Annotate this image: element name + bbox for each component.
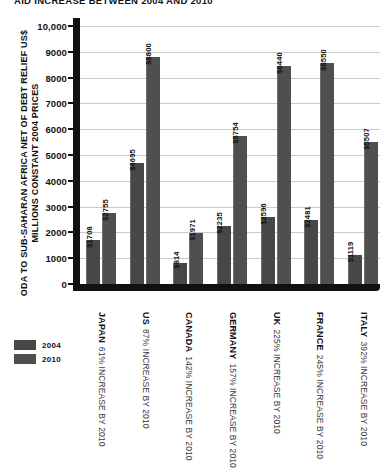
y-axis-tick-label: 9000 bbox=[45, 46, 67, 57]
chart-legend: 20042010 bbox=[14, 340, 61, 364]
bar-value-label: $8800 bbox=[144, 43, 153, 64]
bar: $8550 bbox=[320, 63, 334, 284]
legend-item: 2004 bbox=[14, 340, 61, 350]
category-increase: 392% INCREASE BY 2010 bbox=[359, 342, 369, 446]
bar-group: $814$1971 bbox=[173, 26, 203, 284]
y-axis-tick-label: 6000 bbox=[45, 124, 67, 135]
plot-area: $1708$2755$4695$8800$814$1971$2235$5754$… bbox=[73, 26, 380, 284]
bar-value-label: $1708 bbox=[85, 226, 94, 247]
bar-value-label: $2481 bbox=[303, 206, 312, 227]
bar: $8800 bbox=[146, 57, 160, 284]
y-axis-tick-label: 8000 bbox=[45, 72, 67, 83]
legend-item: 2010 bbox=[14, 354, 61, 364]
bar-group: $1119$5507 bbox=[348, 26, 378, 284]
category-label: ITALY392% INCREASE BY 2010 bbox=[353, 312, 369, 472]
bar: $2596 bbox=[261, 217, 275, 284]
bar-value-label: $4695 bbox=[128, 149, 137, 170]
bar: $8440 bbox=[277, 66, 291, 284]
bar-value-label: $8550 bbox=[319, 50, 328, 71]
category-increase: 61% INCREASE BY 2010 bbox=[97, 347, 107, 447]
category-label: US87% INCREASE BY 2010 bbox=[135, 312, 151, 472]
bar: $2755 bbox=[102, 213, 116, 284]
category-labels: JAPAN61% INCREASE BY 2010US87% INCREASE … bbox=[80, 312, 380, 472]
category-increase: 245% INCREASE BY 2010 bbox=[315, 355, 325, 459]
bar-group: $4695$8800 bbox=[130, 26, 160, 284]
bar-value-label: $1971 bbox=[188, 219, 197, 240]
bar: $5507 bbox=[364, 142, 378, 284]
bar-group: $2235$5754 bbox=[217, 26, 247, 284]
bar-groups: $1708$2755$4695$8800$814$1971$2235$5754$… bbox=[80, 26, 380, 284]
bar: $1708 bbox=[86, 240, 100, 284]
y-axis-tick-label: 5000 bbox=[45, 150, 67, 161]
bar: $4695 bbox=[130, 163, 144, 284]
category-increase: 225% INCREASE BY 2010 bbox=[272, 329, 282, 433]
bar-group: $1708$2755 bbox=[86, 26, 116, 284]
category-label: CANADA142% INCREASE BY 2010 bbox=[178, 312, 194, 472]
bar-value-label: $5507 bbox=[362, 128, 371, 149]
bar-value-label: $2755 bbox=[101, 199, 110, 220]
y-axis-tick-label: 2000 bbox=[45, 227, 67, 238]
category-label: FRANCE245% INCREASE BY 2010 bbox=[309, 312, 325, 472]
category-country: JAPAN bbox=[97, 312, 107, 343]
category-country: US bbox=[141, 312, 151, 325]
y-axis-tick-label: 1000 bbox=[45, 253, 67, 264]
bar-value-label: $2596 bbox=[259, 203, 268, 224]
bar: $1119 bbox=[348, 255, 362, 284]
y-axis-tick-label: 10,000 bbox=[37, 21, 67, 32]
category-label: JAPAN61% INCREASE BY 2010 bbox=[91, 312, 107, 472]
legend-swatch bbox=[14, 340, 36, 350]
bar-value-label: $1119 bbox=[346, 242, 355, 263]
y-axis-tick-column: 10,0009000800070006000500040003000200010… bbox=[28, 26, 73, 284]
bar-group: $2596$8440 bbox=[261, 26, 291, 284]
bar: $814 bbox=[173, 263, 187, 284]
y-axis-tick-label: 3000 bbox=[45, 201, 67, 212]
category-increase: 157% INCREASE BY 2010 bbox=[228, 363, 238, 467]
category-increase: 87% INCREASE BY 2010 bbox=[141, 329, 151, 429]
y-axis-tick-label: 7000 bbox=[45, 98, 67, 109]
y-axis-tick-label: 0 bbox=[62, 279, 67, 290]
y-axis-line bbox=[73, 18, 80, 288]
bar-value-label: $8440 bbox=[275, 53, 284, 74]
category-increase: 142% INCREASE BY 2010 bbox=[184, 356, 194, 460]
bar: $2235 bbox=[217, 226, 231, 284]
bar-group: $2481$8550 bbox=[304, 26, 334, 284]
bar: $2481 bbox=[304, 220, 318, 284]
category-country: UK bbox=[272, 312, 282, 325]
chart-plot-wrapper: 10,0009000800070006000500040003000200010… bbox=[28, 26, 380, 310]
legend-label: 2010 bbox=[42, 355, 61, 364]
bar: $1971 bbox=[189, 233, 203, 284]
category-country: CANADA bbox=[184, 312, 194, 352]
category-country: ITALY bbox=[359, 312, 369, 338]
category-country: FRANCE bbox=[315, 312, 325, 351]
category-label: GERMANY157% INCREASE BY 2010 bbox=[222, 312, 238, 472]
bar-value-label: $814 bbox=[172, 251, 181, 268]
y-axis-tick-label: 4000 bbox=[45, 175, 67, 186]
x-axis-line bbox=[73, 284, 380, 291]
legend-swatch bbox=[14, 354, 36, 364]
category-label: UK225% INCREASE BY 2010 bbox=[266, 312, 282, 472]
bar-value-label: $2235 bbox=[215, 213, 224, 234]
bar: $5754 bbox=[233, 136, 247, 284]
bar-value-label: $5754 bbox=[231, 122, 240, 143]
legend-label: 2004 bbox=[42, 341, 61, 350]
category-country: GERMANY bbox=[228, 312, 238, 359]
chart-title: AID INCREASE BETWEEN 2004 AND 2010 bbox=[14, 0, 374, 6]
